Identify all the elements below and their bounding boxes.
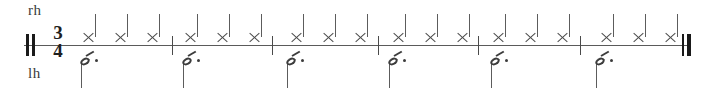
rh-note-6	[249, 14, 267, 46]
lh-note-1	[80, 58, 106, 88]
rh-note-7	[291, 14, 309, 46]
eighth-flag-icon	[292, 55, 300, 63]
start-barline-stroke-1	[26, 34, 29, 56]
augmentation-dot-icon	[301, 59, 304, 62]
augmentation-dot-icon	[95, 59, 98, 62]
note-stem	[81, 62, 82, 88]
note-stem	[127, 14, 128, 37]
augmentation-dot-icon	[197, 59, 200, 62]
rh-note-12	[457, 14, 475, 46]
barline-2	[272, 36, 273, 55]
note-stem	[677, 14, 678, 37]
rh-note-9	[355, 14, 373, 46]
music-notation-canvas: rh lh 3 4	[0, 0, 717, 92]
note-stem	[405, 14, 406, 37]
barline-3	[378, 36, 379, 55]
right-hand-label: rh	[28, 3, 42, 18]
x-notehead-icon	[493, 32, 504, 43]
start-barline-stroke-2	[32, 34, 35, 56]
x-notehead-icon	[557, 32, 568, 43]
barline-5	[580, 36, 581, 55]
note-stem	[197, 14, 198, 37]
barline-1	[172, 36, 173, 55]
rh-note-4	[185, 14, 203, 46]
left-hand-label: lh	[28, 66, 41, 81]
time-signature: 3 4	[48, 24, 68, 60]
note-stem	[261, 14, 262, 37]
note-stem	[389, 62, 390, 88]
note-stem	[491, 62, 492, 88]
eighth-flag-icon	[496, 55, 504, 63]
x-notehead-icon	[425, 32, 436, 43]
barline-4	[478, 36, 479, 55]
note-stem	[613, 14, 614, 37]
x-notehead-icon	[83, 32, 94, 43]
note-stem	[95, 14, 96, 37]
augmentation-dot-icon	[403, 59, 406, 62]
note-stem	[505, 14, 506, 37]
note-stem	[335, 14, 336, 37]
lh-note-5	[490, 58, 516, 88]
note-stem	[569, 14, 570, 37]
note-stem	[437, 14, 438, 37]
lh-note-4	[388, 58, 414, 88]
x-notehead-icon	[291, 32, 302, 43]
x-notehead-icon	[665, 32, 676, 43]
note-stem	[367, 14, 368, 37]
note-stem	[537, 14, 538, 37]
rh-note-1	[83, 14, 101, 46]
lh-note-6	[595, 58, 621, 88]
note-stem	[229, 14, 230, 37]
end-barline-thick-stroke	[687, 34, 691, 56]
x-notehead-icon	[323, 32, 334, 43]
x-notehead-icon	[147, 32, 158, 43]
rh-note-16	[601, 14, 619, 46]
x-notehead-icon	[457, 32, 468, 43]
x-notehead-icon	[633, 32, 644, 43]
note-stem	[469, 14, 470, 37]
note-stem	[303, 14, 304, 37]
rh-note-18	[665, 14, 683, 46]
lh-note-2	[182, 58, 208, 88]
note-stem	[183, 62, 184, 88]
rh-note-3	[147, 14, 165, 46]
time-signature-denominator: 4	[48, 42, 68, 60]
x-notehead-icon	[393, 32, 404, 43]
note-stem	[287, 62, 288, 88]
rh-note-5	[217, 14, 235, 46]
rh-note-17	[633, 14, 651, 46]
augmentation-dot-icon	[610, 59, 613, 62]
x-notehead-icon	[601, 32, 612, 43]
eighth-flag-icon	[188, 55, 196, 63]
rh-note-14	[525, 14, 543, 46]
x-notehead-icon	[185, 32, 196, 43]
note-stem	[645, 14, 646, 37]
eighth-flag-icon	[601, 55, 609, 63]
eighth-flag-icon	[86, 55, 94, 63]
lh-note-3	[286, 58, 312, 88]
note-stem	[159, 14, 160, 37]
rh-note-13	[493, 14, 511, 46]
x-notehead-icon	[525, 32, 536, 43]
rh-note-11	[425, 14, 443, 46]
note-stem	[596, 62, 597, 88]
eighth-flag-icon	[394, 55, 402, 63]
rh-note-8	[323, 14, 341, 46]
x-notehead-icon	[249, 32, 260, 43]
rh-note-10	[393, 14, 411, 46]
x-notehead-icon	[217, 32, 228, 43]
rh-note-15	[557, 14, 575, 46]
rh-note-2	[115, 14, 133, 46]
x-notehead-icon	[115, 32, 126, 43]
augmentation-dot-icon	[505, 59, 508, 62]
x-notehead-icon	[355, 32, 366, 43]
